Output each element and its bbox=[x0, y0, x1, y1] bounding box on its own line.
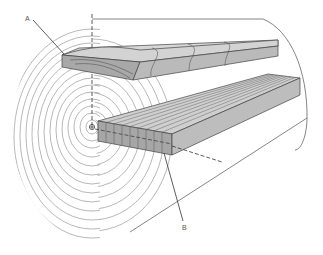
board-a-flat-sawn bbox=[62, 40, 278, 80]
label-a: A bbox=[25, 15, 30, 22]
pith-icon bbox=[89, 124, 94, 129]
label-b: B bbox=[182, 224, 187, 231]
board-b-dashed-extension bbox=[172, 146, 222, 162]
leader-line-b bbox=[164, 153, 183, 221]
log-diagram bbox=[0, 0, 323, 255]
leader-line-a bbox=[33, 20, 64, 54]
board-b-quarter-sawn bbox=[98, 74, 300, 155]
